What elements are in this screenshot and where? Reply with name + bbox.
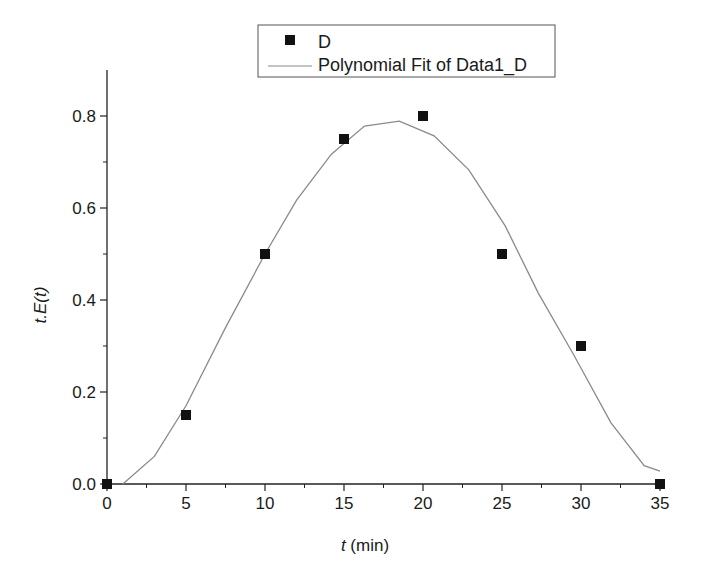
x-tick-label: 35 (651, 494, 670, 513)
data-point-square-icon (260, 249, 270, 259)
legend-label-fit: Polynomial Fit of Data1_D (318, 55, 527, 76)
data-point-square-icon (181, 410, 191, 420)
legend: D Polynomial Fit of Data1_D (258, 25, 555, 77)
x-tick-label: 20 (414, 494, 433, 513)
data-points (102, 111, 665, 489)
legend-marker-square-icon (285, 35, 295, 45)
fit-line (123, 121, 660, 484)
y-axis: 0.00.20.40.60.8 (72, 70, 107, 494)
y-tick-label: 0.2 (72, 383, 96, 402)
data-point-square-icon (576, 341, 586, 351)
x-axis-title: t (min) (341, 536, 389, 555)
x-tick-label: 15 (335, 494, 354, 513)
data-point-square-icon (418, 111, 428, 121)
x-axis: 05101520253035 (102, 484, 669, 513)
y-tick-label: 0.4 (72, 291, 96, 310)
y-tick-label: 0.6 (72, 199, 96, 218)
data-point-square-icon (102, 479, 112, 489)
data-point-square-icon (497, 249, 507, 259)
data-point-square-icon (655, 479, 665, 489)
y-axis-title: t.E(t) (31, 287, 50, 324)
chart: D Polynomial Fit of Data1_D 0.00.20.40.6… (0, 0, 702, 583)
y-tick-label: 0.0 (72, 475, 96, 494)
x-tick-label: 10 (256, 494, 275, 513)
x-tick-label: 0 (102, 494, 111, 513)
x-tick-label: 30 (572, 494, 591, 513)
x-tick-label: 5 (181, 494, 190, 513)
x-tick-label: 25 (493, 494, 512, 513)
x-axis-title-unit: (min) (346, 536, 389, 555)
data-point-square-icon (339, 134, 349, 144)
legend-label-d: D (318, 32, 331, 52)
y-tick-label: 0.8 (72, 107, 96, 126)
